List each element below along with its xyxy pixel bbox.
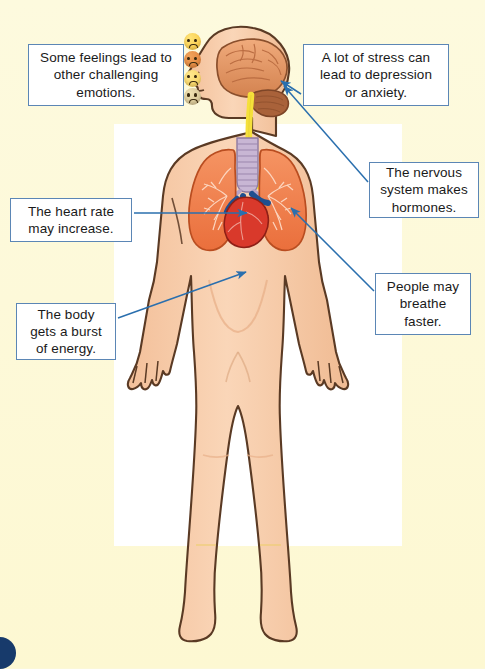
callout-breathe-faster: People may breathe faster. <box>375 273 471 335</box>
sad-face-emoji <box>184 70 201 87</box>
anxious-face-emoji <box>184 88 201 105</box>
worried-face-emoji <box>184 33 201 50</box>
angry-face-emoji <box>184 51 201 68</box>
callout-feelings: Some feelings lead to other challenging … <box>28 44 184 106</box>
callout-burst-of-energy: The body gets a burst of energy. <box>16 303 116 360</box>
callout-nervous-system: The nervous system makes hormones. <box>369 162 479 218</box>
callout-heart-rate: The heart rate may increase. <box>10 198 132 242</box>
body-outline <box>128 27 348 641</box>
callout-stress: A lot of stress can lead to depression o… <box>303 44 449 106</box>
heart <box>224 194 268 247</box>
emoji-column <box>182 33 202 105</box>
